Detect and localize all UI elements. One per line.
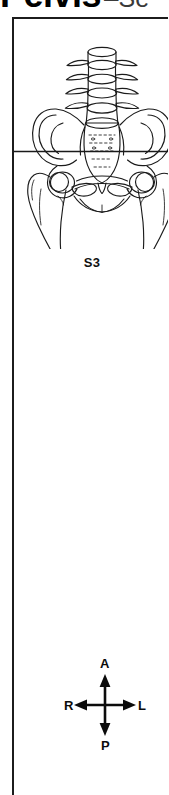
page-title: Pelvis–Se	[0, 0, 168, 14]
acetabulum-right	[127, 166, 157, 198]
lumbar-vertebrae-group	[65, 47, 138, 128]
figure-frame: S3 A P R L	[12, 17, 168, 795]
ilium-right	[120, 109, 168, 166]
page-title-subtitle: Se	[119, 0, 150, 12]
ilium-left	[33, 109, 84, 166]
page-title-dash: –	[101, 0, 118, 13]
pelvis-illustration	[14, 19, 168, 249]
page-title-main: Pelvis	[0, 0, 101, 14]
orientation-label-anterior: A	[100, 657, 109, 670]
orientation-compass-arrows-icon	[64, 657, 148, 751]
orientation-label-posterior: P	[101, 739, 110, 752]
orientation-label-left: L	[138, 699, 146, 712]
vertebral-level-label: S3	[14, 255, 168, 270]
orientation-label-right: R	[64, 699, 73, 712]
pubic-rami-and-symphysis	[72, 176, 132, 213]
acetabulum-left	[48, 166, 78, 198]
femur-right	[136, 173, 169, 250]
pelvis-anterior-view-svg	[14, 19, 168, 249]
orientation-compass: A P R L	[64, 657, 148, 751]
